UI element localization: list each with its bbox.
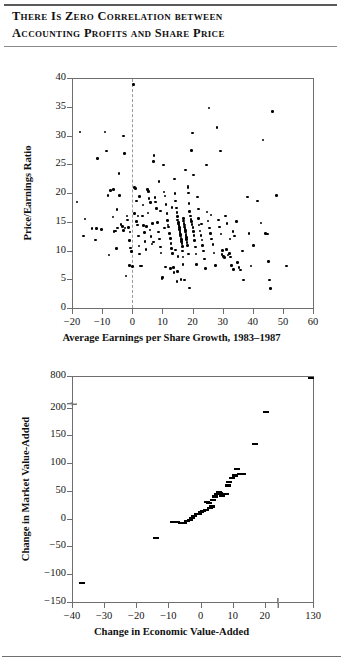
data-point [95,227,98,230]
data-point [152,241,155,244]
data-point [271,110,274,113]
x-tick [168,603,169,608]
data-point [195,263,198,266]
data-point [204,267,207,270]
data-point [190,149,193,152]
top-rule [4,4,337,6]
x-tick [233,603,234,608]
plot-frame-top [72,376,313,377]
x-tick [162,309,163,314]
data-point [203,509,209,511]
data-point [218,226,221,229]
data-point [193,239,196,242]
data-point [201,244,204,247]
data-point [127,226,130,229]
title-underline-rule [4,46,337,47]
x-axis-line-left [72,602,277,603]
y-tick [67,546,72,547]
x-tick [283,309,284,314]
figure-title-line-2: Accounting Profits and Share Price [12,25,332,42]
y-tick [67,193,72,194]
data-point [120,223,123,226]
y-tick-label: 0 [34,512,66,523]
data-point [175,207,178,210]
data-point [145,225,148,228]
data-point [263,411,269,413]
data-point [223,256,226,259]
y-tick [67,408,72,409]
x-tick-label: −30 [87,610,121,621]
y-tick-label: −50 [34,539,66,550]
x-tick-label: −20 [119,610,153,621]
data-point [155,207,158,210]
data-point [154,196,157,199]
data-point [226,481,232,483]
data-point [114,230,117,233]
plot-area-2 [72,376,313,602]
x-axis-line-right [279,602,314,603]
data-point [229,256,232,259]
data-point [196,196,199,199]
chart-pe-vs-eps-growth: 0510152025303540−20−100102030405060Avera… [0,70,343,355]
x-tick [193,309,194,314]
y-axis-line-lower [72,394,73,602]
x-tick-label: −20 [56,316,88,327]
x-tick-label: 50 [267,316,299,327]
x-tick-label: 0 [184,610,218,621]
x-tick [72,309,73,314]
data-point [189,215,192,218]
x-tick [265,603,266,608]
y-tick-label: 10 [42,244,66,255]
x-tick-label: 60 [297,316,329,327]
x-tick-label: 20 [248,610,282,621]
y-tick-label: 20 [42,186,66,197]
figure-title: There Is Zero Correlation between Accoun… [12,8,332,42]
figure-page: There Is Zero Correlation between Accoun… [0,0,343,669]
data-point [159,246,162,249]
data-point [200,234,203,237]
data-point [176,280,179,283]
plot-area-1 [72,78,313,308]
x-tick [223,309,224,314]
y-tick-label: 25 [42,157,66,168]
y-tick [67,574,72,575]
y-tick [67,251,72,252]
data-point [269,287,272,290]
y-tick-label: 40 [42,71,66,82]
x-tick [253,309,254,314]
data-point [226,222,229,225]
y-tick [67,376,72,377]
x-tick [313,603,314,608]
data-point [131,265,134,268]
data-point [153,537,159,539]
data-point [275,194,278,197]
data-point [206,502,212,504]
data-point [168,232,171,235]
y-tick [67,519,72,520]
y-tick-label: 15 [42,215,66,226]
data-point [132,83,135,86]
data-point [230,264,233,267]
data-point [123,152,126,155]
data-point [122,135,125,138]
data-point [158,238,161,241]
data-point [115,247,118,250]
y-axis-title: Price/Earnings Ratio [22,78,33,308]
data-point [187,519,193,521]
y-tick [67,78,72,79]
data-point [197,217,200,220]
data-point [187,253,190,256]
y-axis-break-symbol [66,392,80,396]
data-point [156,221,159,224]
data-point [161,276,164,279]
data-point [192,230,195,233]
y-tick-label: 800 [34,369,66,380]
data-point [219,150,222,153]
x-tick-label: 20 [177,316,209,327]
data-point [172,266,175,269]
data-point [184,169,187,172]
plot-frame-right [313,376,314,602]
x-tick [201,603,202,608]
data-point [240,473,246,475]
data-point [177,255,180,258]
